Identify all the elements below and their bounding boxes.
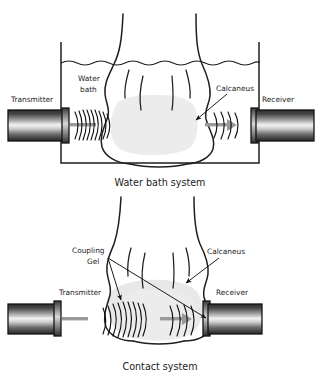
beam-shaft-tx-top [70, 123, 96, 126]
label-coupling-gel-line1: Coupling [72, 246, 105, 255]
transducer-face-cap [62, 108, 69, 143]
label-water-bath-line2: bath [80, 85, 97, 94]
ultrasound-systems-figure: Transmitter Receiver Water bath Calcaneu… [0, 0, 320, 380]
transmitter-transducer-bottom [8, 301, 61, 336]
label-water-bath-line1: Water [78, 74, 101, 83]
label-receiver-bottom: Receiver [216, 288, 249, 297]
receiver-cylinder-icon [256, 110, 314, 141]
receiver-transducer-bottom [203, 301, 262, 336]
receiver-cylinder-icon-bottom [208, 304, 262, 334]
caption-contact-system: Contact system [122, 361, 197, 372]
label-calcaneus-bottom: Calcaneus [207, 247, 245, 256]
figure-root: Transmitter Receiver Water bath Calcaneu… [0, 0, 320, 380]
receiver-transducer-top [251, 108, 314, 143]
label-transmitter-top: Transmitter [10, 95, 54, 104]
transducer-face-cap-bottom [54, 301, 61, 336]
beam-shaft-tx-bottom [62, 317, 88, 320]
caption-water-bath-system: Water bath system [115, 177, 206, 188]
transducer-cylinder-icon [8, 110, 66, 141]
calcaneus-bone-shape-top [111, 95, 198, 155]
label-coupling-gel-line2: Gel [87, 257, 99, 266]
transmitter-transducer-top [8, 108, 69, 143]
label-transmitter-bottom: Transmitter [58, 288, 102, 297]
label-calcaneus-top: Calcaneus [216, 84, 254, 93]
label-receiver-top: Receiver [262, 95, 295, 104]
transducer-cylinder-icon-bottom [8, 304, 58, 334]
